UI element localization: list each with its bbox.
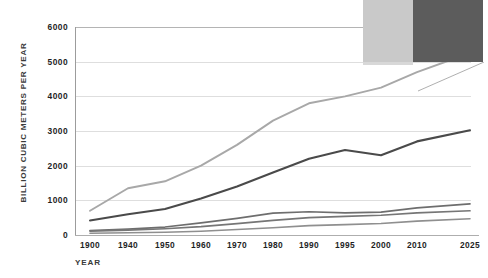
line-series-3-industrial [90, 204, 470, 231]
inset-light-swatch [363, 0, 413, 62]
line-series-5-reservoir-losses [90, 219, 470, 234]
line-series-2-agricultural [90, 130, 470, 220]
inset-dark-swatch [413, 0, 483, 62]
line-series-1-total-withdrawal [90, 53, 470, 211]
inset-light-swatch-edge [363, 62, 413, 65]
